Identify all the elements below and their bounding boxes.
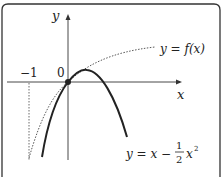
frac-numerator: 1 [176,140,182,151]
y-axis-label: y [51,8,60,23]
graph-figure: y x 0 −1 y = f(x) y = x − 1 2 x 2 [0,0,222,177]
parabola-exponent: 2 [194,145,198,153]
origin-point [65,79,71,85]
parabola-x: x [186,147,193,161]
curve-parabola [42,70,127,157]
origin-label: 0 [57,66,65,80]
x-axis-arrow-icon [176,80,182,85]
curve-f [29,47,155,158]
parabola-label: y = x − [125,147,171,161]
curve-f-label: y = f(x) [159,42,205,56]
y-axis-arrow-icon [66,14,71,20]
graph-svg: y x 0 −1 y = f(x) y = x − 1 2 x 2 [0,0,222,177]
tick-label-neg1: −1 [20,66,38,80]
x-axis-label: x [177,87,185,102]
frac-denominator: 2 [176,154,182,165]
